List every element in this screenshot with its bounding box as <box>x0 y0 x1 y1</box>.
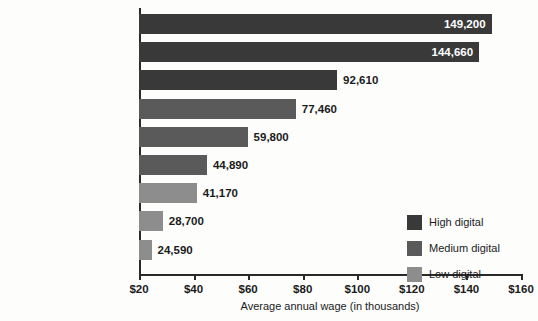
x-axis-tick-label: $100 <box>344 283 370 295</box>
bar[interactable] <box>139 14 492 34</box>
bar-value-label: 77,460 <box>302 99 337 119</box>
legend-swatch <box>407 215 422 230</box>
x-axis-tick <box>521 274 523 280</box>
bar[interactable] <box>139 127 248 147</box>
bar[interactable] <box>139 211 163 231</box>
bar-value-label: 149,200 <box>444 14 486 34</box>
x-axis-tick <box>194 274 196 280</box>
bar[interactable] <box>139 240 152 260</box>
bar-value-label: 44,890 <box>213 155 248 175</box>
x-axis-tick <box>139 274 141 280</box>
bar-value-label: 24,590 <box>158 240 193 260</box>
x-axis-tick-label: $60 <box>239 283 258 295</box>
bar-value-label: 28,700 <box>169 211 204 231</box>
bar[interactable] <box>139 155 207 175</box>
x-axis-tick-label: $160 <box>508 283 534 295</box>
legend-label: Medium digital <box>429 239 500 258</box>
bar-value-label: 41,170 <box>203 183 238 203</box>
bar[interactable] <box>139 70 337 90</box>
bar-value-label: 59,800 <box>254 127 289 147</box>
bar-value-label: 92,610 <box>343 70 378 90</box>
bar[interactable] <box>139 183 197 203</box>
legend-label: Low digital <box>429 265 481 284</box>
x-axis-tick <box>357 274 359 280</box>
x-axis-tick <box>303 274 305 280</box>
x-axis-title: Average annual wage (in thousands) <box>241 300 420 312</box>
bar[interactable] <box>139 42 479 62</box>
bar[interactable] <box>139 99 296 119</box>
legend-swatch <box>407 241 422 256</box>
x-axis-tick-label: $140 <box>454 283 480 295</box>
legend-label: High digital <box>429 213 483 232</box>
legend-swatch <box>407 267 422 282</box>
x-axis-tick <box>248 274 250 280</box>
bar-value-label: 144,660 <box>432 42 474 62</box>
x-axis-tick-label: $40 <box>184 283 203 295</box>
x-axis-tick-label: $20 <box>129 283 148 295</box>
x-axis-tick-label: $120 <box>399 283 425 295</box>
horizontal-bar-chart: Sales managers149,200Market research ana… <box>0 0 538 321</box>
x-axis-tick-label: $80 <box>293 283 312 295</box>
